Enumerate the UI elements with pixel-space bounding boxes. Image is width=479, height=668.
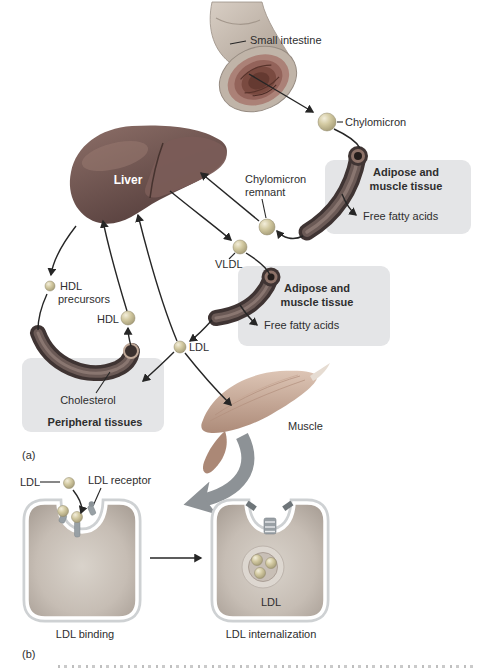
arrow-capillary-to-ldl — [190, 320, 212, 341]
arrow-liver-to-hdl-precursors — [51, 226, 76, 275]
internalized-ldl-1 — [252, 555, 263, 566]
free-fatty-acids-top-label: Free fatty acids — [363, 210, 439, 222]
ldl-label: LDL — [189, 341, 209, 353]
cell-ldl-binding — [27, 501, 137, 618]
internalized-ldl-3 — [255, 568, 266, 579]
arrow-ldl-into-pit — [73, 490, 82, 513]
bound-ldl-particle-2 — [72, 512, 83, 523]
liver-label: Liver — [114, 173, 143, 187]
arrow-ldl-to-muscle — [185, 353, 231, 405]
free-ldl-particle — [64, 478, 75, 489]
small-intestine-label: Small intestine — [250, 34, 322, 46]
curve-hdl-precursors-to-capillary — [38, 294, 47, 330]
free-fatty-acids-mid-label: Free fatty acids — [264, 319, 340, 331]
figure-canvas: Small intestine Chylomicron Liver Chylom… — [0, 0, 479, 668]
panel-a-label: (a) — [22, 449, 35, 461]
chylomicron-particle — [318, 113, 336, 131]
ldl-internalization-label: LDL internalization — [226, 628, 317, 640]
ldl-b-label: LDL — [20, 476, 40, 488]
adipose-top-label-line2: muscle tissue — [370, 180, 443, 192]
leader-chylomicron-remnant — [262, 199, 266, 218]
chylomicron-remnant-particle — [259, 219, 275, 235]
chylomicron-remnant-label-line1: Chylomicron — [245, 173, 306, 185]
ldl-particle — [174, 341, 186, 353]
muscle-label: Muscle — [288, 420, 323, 432]
adipose-top-label-line1: Adipose and — [373, 166, 439, 178]
muscle-illustration — [201, 363, 330, 473]
hdl-precursors-label-line2: precursors — [58, 293, 110, 305]
small-intestine-illustration — [209, 2, 308, 124]
ldl-receptor-label: LDL receptor — [88, 474, 152, 486]
lipoprotein-metabolism-figure: Small intestine Chylomicron Liver Chylom… — [0, 0, 479, 668]
panel-b-label: (b) — [22, 648, 35, 660]
adipose-mid-label-line1: Adipose and — [284, 282, 350, 294]
arrow-ldl-to-liver — [138, 215, 177, 341]
ldl-vesicle-label: LDL — [261, 596, 281, 608]
peripheral-tissues-label: Peripheral tissues — [48, 416, 143, 428]
vldl-label: VLDL — [215, 258, 243, 270]
flow-arrows — [38, 74, 360, 405]
arrow-liver-to-vldl — [170, 191, 231, 240]
cholesterol-label: Cholesterol — [60, 394, 116, 406]
ldl-binding-label: LDL binding — [56, 628, 114, 640]
hdl-particle — [121, 311, 135, 325]
endocytic-vesicle — [242, 546, 284, 588]
hdl-precursors-label-line1: HDL — [60, 280, 82, 292]
chylomicron-remnant-label-line2: remnant — [245, 186, 285, 198]
chylomicron-label: Chylomicron — [345, 116, 406, 128]
internalized-ldl-2 — [266, 558, 277, 569]
hdl-precursor-particle — [45, 281, 55, 291]
curve-chylomicron-to-capillary — [334, 129, 360, 148]
vldl-particle — [233, 240, 247, 254]
bound-ldl-particle-1 — [58, 506, 69, 517]
hdl-label: HDL — [97, 313, 119, 325]
adipose-mid-label-line2: muscle tissue — [281, 296, 354, 308]
